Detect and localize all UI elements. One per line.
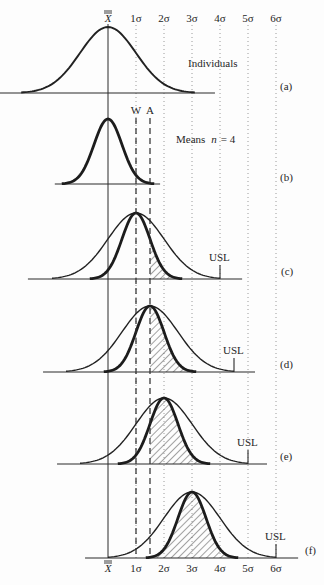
panel-tag: (b) (280, 171, 293, 184)
sigma-1-label: 1σ (130, 12, 142, 24)
sigma-5-label: 5σ (242, 12, 254, 24)
bottom-sigma-scale: X1σ2σ3σ4σ5σ6σ (104, 561, 282, 574)
top-sigma-scale: X1σ2σ3σ4σ5σ6σ (104, 11, 282, 24)
caption-prefix: Means (176, 133, 205, 145)
panel-b: Meansn= 4(b) (55, 119, 293, 184)
panel-f: USL(f) (85, 492, 316, 558)
panel-d: USL(d) (43, 306, 293, 372)
panel-tag: (a) (280, 80, 293, 93)
panel-caption: Meansn= 4 (176, 133, 236, 145)
sigma-1-label: 1σ (130, 562, 142, 574)
panel-tag: (f) (305, 544, 316, 557)
panel-e: USL(e) (57, 398, 293, 464)
warning-limit-label: W (131, 104, 142, 116)
usl-label: USL (223, 344, 244, 356)
sigma-6-label: 6σ (270, 562, 282, 574)
grand-mean-symbol: X (104, 562, 113, 574)
sigma-2-label: 2σ (158, 562, 170, 574)
usl-label: USL (237, 436, 258, 448)
usl-label: USL (209, 251, 230, 263)
panel-caption: Individuals (188, 57, 238, 69)
panel-tag: (e) (280, 450, 293, 463)
panels: Individuals(a)Meansn= 4(b)USL(c)USL(d)US… (0, 27, 316, 558)
caption-suffix: = 4 (221, 133, 236, 145)
sigma-3-label: 3σ (186, 12, 198, 24)
sigma-4-label: 4σ (214, 12, 226, 24)
caption-variable: n (211, 133, 217, 145)
panel-c: USL(c) (28, 213, 294, 279)
panel-tag: (c) (281, 265, 294, 278)
sigma-shift-diagram: Individuals(a)Meansn= 4(b)USL(c)USL(d)US… (0, 0, 324, 585)
sigma-5-label: 5σ (242, 562, 254, 574)
panel-a: Individuals(a) (0, 27, 293, 93)
sigma-3-label: 3σ (186, 562, 198, 574)
sigma-4-label: 4σ (214, 562, 226, 574)
grand-mean-symbol: X (104, 12, 113, 24)
usl-label: USL (265, 530, 286, 542)
sigma-6-label: 6σ (270, 12, 282, 24)
action-limit-label: A (146, 104, 154, 116)
panel-tag: (d) (280, 358, 293, 371)
sigma-2-label: 2σ (158, 12, 170, 24)
